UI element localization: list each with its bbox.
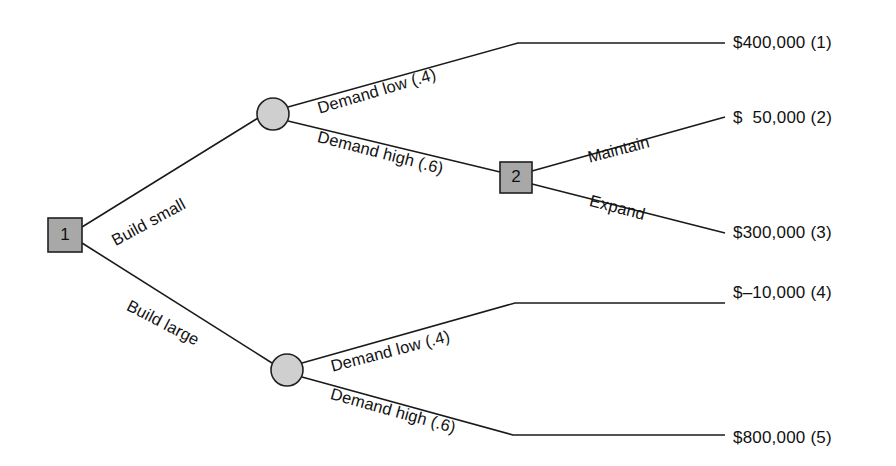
decision-node-2-label: 2 bbox=[511, 167, 520, 186]
chance-node-upper[interactable] bbox=[257, 98, 289, 130]
decision-node-1-label: 1 bbox=[60, 225, 69, 244]
chance-node-lower[interactable] bbox=[271, 354, 303, 386]
payoff-label-1: $400,000 (1) bbox=[733, 33, 832, 53]
payoff-label-3: $300,000 (3) bbox=[733, 223, 832, 243]
decision-tree-diagram: 1 2 Build small Build large Demand low (… bbox=[0, 0, 896, 466]
edge-build-large bbox=[82, 243, 272, 363]
payoff-label-2: $ 50,000 (2) bbox=[733, 108, 832, 128]
payoff-label-4: $–10,000 (4) bbox=[733, 283, 832, 303]
payoff-label-5: $800,000 (5) bbox=[733, 428, 832, 448]
